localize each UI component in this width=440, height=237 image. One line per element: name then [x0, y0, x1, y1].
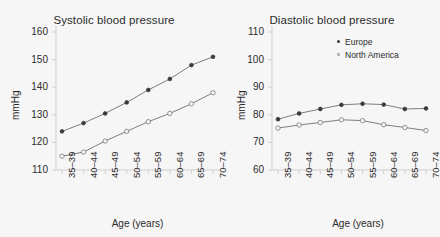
figure-canvas: Systolic blood pressure mmHg Age (years)…: [0, 0, 440, 237]
x-tick-label: 70–74: [430, 152, 440, 178]
y-axis-label-diastolic: mmHg: [236, 91, 247, 120]
y-tick-label: 70: [232, 136, 264, 147]
x-tick-label: 45–49: [109, 152, 120, 178]
legend-item-north-america: North America: [334, 49, 399, 60]
x-tick-label: 55–59: [152, 152, 163, 178]
x-tick-label: 65–69: [195, 152, 206, 178]
x-tick-label: 55–59: [367, 152, 378, 178]
y-tick-label: 160: [16, 26, 48, 37]
chart-panel-diastolic: Diastolic blood pressure 607080901001103…: [226, 0, 440, 237]
y-tick-label: 130: [16, 109, 48, 120]
open-circle-icon: [334, 53, 343, 56]
legend-label-north-america: North America: [345, 50, 399, 60]
x-tick-label: 50–54: [131, 152, 142, 178]
y-tick-label: 140: [16, 81, 48, 92]
x-tick-label: 65–69: [409, 152, 420, 178]
legend-label-europe: Europe: [345, 37, 372, 47]
y-tick-label: 120: [16, 136, 48, 147]
x-tick-label: 35–39: [282, 152, 293, 178]
x-tick-label: 40–44: [88, 152, 99, 178]
filled-circle-icon: [334, 40, 343, 43]
x-tick-label: 50–54: [345, 152, 356, 178]
x-tick-label: 45–49: [324, 152, 335, 178]
y-tick-label: 60: [232, 164, 264, 175]
y-tick-label: 100: [232, 54, 264, 65]
x-tick-label: 60–64: [388, 152, 399, 178]
x-tick-label: 35–39: [66, 152, 77, 178]
legend-item-europe: Europe: [334, 36, 399, 47]
y-tick-label: 110: [16, 164, 48, 175]
y-tick-label: 150: [16, 54, 48, 65]
chart-panel-systolic: Systolic blood pressure mmHg Age (years)…: [0, 0, 226, 237]
legend: Europe North America: [334, 36, 399, 62]
y-tick-label: 110: [232, 26, 264, 37]
x-tick-label: 40–44: [303, 152, 314, 178]
x-tick-label: 60–64: [174, 152, 185, 178]
x-axis-label-diastolic: Age (years): [278, 218, 438, 229]
